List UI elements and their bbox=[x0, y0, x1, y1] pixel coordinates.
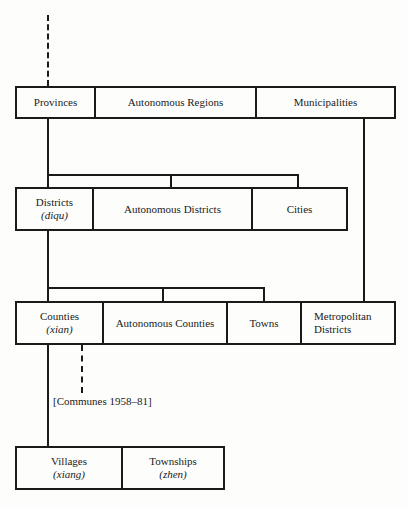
provinces-label: Provinces bbox=[34, 96, 77, 109]
districts-sub-label: (diqu) bbox=[41, 209, 68, 222]
towns-box: Towns bbox=[228, 303, 302, 343]
communes-dashed-connector bbox=[81, 345, 83, 393]
administrative-hierarchy-diagram: Provinces Autonomous Regions Municipalit… bbox=[0, 0, 408, 507]
communes-note: [Communes 1958–81] bbox=[53, 395, 152, 407]
villages-sub-label: (xiang) bbox=[53, 468, 85, 481]
provinces-connector bbox=[47, 119, 49, 188]
townships-label: Townships bbox=[149, 455, 197, 468]
autonomous-districts-box: Autonomous Districts bbox=[94, 189, 253, 229]
provinces-box: Provinces bbox=[17, 88, 96, 117]
villages-label: Villages bbox=[51, 455, 87, 468]
towns-label: Towns bbox=[249, 317, 278, 330]
counties-label: Counties bbox=[40, 310, 79, 323]
level2-bracket-drop-right bbox=[297, 174, 299, 188]
counties-box: Counties (xian) bbox=[17, 303, 104, 343]
cities-box: Cities bbox=[253, 189, 346, 229]
autonomous-counties-box: Autonomous Counties bbox=[104, 303, 228, 343]
level3-row: Counties (xian) Autonomous Counties Town… bbox=[15, 301, 396, 345]
municipalities-connector bbox=[363, 119, 365, 302]
districts-connector bbox=[47, 231, 49, 302]
level3-bracket-drop-right bbox=[263, 287, 265, 302]
level4-row: Villages (xiang) Townships (zhen) bbox=[15, 446, 225, 490]
metropolitan-districts-label: Metropolitan bbox=[314, 310, 371, 323]
level1-row: Provinces Autonomous Regions Municipalit… bbox=[15, 86, 396, 119]
townships-box: Townships (zhen) bbox=[123, 448, 223, 488]
districts-label: Districts bbox=[36, 196, 73, 209]
level2-bracket-drop-mid bbox=[170, 174, 172, 188]
counties-connector bbox=[47, 345, 49, 447]
municipalities-box: Municipalities bbox=[257, 88, 394, 117]
autonomous-regions-box: Autonomous Regions bbox=[96, 88, 257, 117]
top-dashed-connector bbox=[47, 15, 49, 86]
townships-sub-label: (zhen) bbox=[159, 468, 187, 481]
autonomous-districts-label: Autonomous Districts bbox=[124, 203, 221, 216]
metropolitan-districts-box: Metropolitan Districts bbox=[302, 303, 394, 343]
autonomous-counties-label: Autonomous Counties bbox=[116, 317, 215, 330]
villages-box: Villages (xiang) bbox=[17, 448, 123, 488]
autonomous-regions-label: Autonomous Regions bbox=[128, 96, 224, 109]
municipalities-label: Municipalities bbox=[294, 96, 358, 109]
level3-bracket bbox=[47, 287, 265, 289]
level2-bracket bbox=[47, 174, 299, 176]
level2-row: Districts (diqu) Autonomous Districts Ci… bbox=[15, 187, 348, 231]
districts-box: Districts (diqu) bbox=[17, 189, 94, 229]
counties-sub-label: (xian) bbox=[46, 323, 72, 336]
level3-bracket-drop-mid bbox=[162, 287, 164, 302]
cities-label: Cities bbox=[287, 203, 313, 216]
metropolitan-districts-label-line2: Districts bbox=[314, 323, 351, 336]
